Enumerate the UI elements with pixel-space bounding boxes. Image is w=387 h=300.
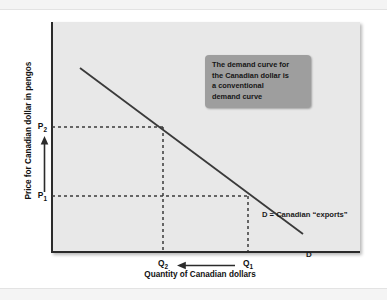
callout-line-2: the Canadian dollar is — [212, 71, 304, 82]
figure: Price for Canadian dollar in pengos P2 P… — [0, 0, 387, 300]
callout-line-4: demand curve — [212, 92, 304, 103]
y-tick-p1-sub: 1 — [43, 195, 47, 202]
page-band-top — [0, 0, 387, 9]
callout-line-3: a conventional — [212, 81, 304, 92]
page-rule-top — [0, 9, 387, 10]
plot-area: The demand curve for the Canadian dollar… — [51, 22, 360, 253]
price-increase-arrow-icon — [40, 136, 49, 192]
callout-line-1: The demand curve for — [212, 60, 304, 71]
page-band-bottom — [0, 289, 387, 300]
x-tick-q2-sub: 2 — [164, 263, 168, 270]
x-axis-title: Quantity of Canadian dollars — [90, 270, 310, 279]
demand-curve-callout: The demand curve for the Canadian dollar… — [205, 55, 311, 108]
page-rule-bottom — [0, 288, 387, 289]
y-tick-label-p2: P2 — [29, 121, 47, 133]
x-tick-label-q1: Q1 — [238, 258, 258, 270]
demand-curve-end-label: D — [306, 250, 312, 259]
x-tick-q1-sub: 1 — [249, 263, 253, 270]
x-tick-label-q2: Q2 — [153, 258, 173, 270]
quantity-decrease-arrow-icon — [177, 261, 235, 270]
demand-curve-legend-label: D = Canadian “exports” — [262, 210, 347, 219]
y-tick-p2-sub: 2 — [43, 126, 47, 133]
